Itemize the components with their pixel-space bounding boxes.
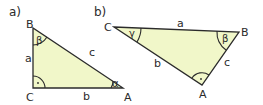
right-angle-dot-a	[37, 82, 39, 84]
triangle-diagrams: a) B C A a b c β α b)	[0, 0, 263, 105]
vertex-b-label-b: B	[241, 26, 249, 39]
angle-alpha-label-a: α	[112, 78, 119, 89]
vertex-a-label-a: A	[124, 91, 132, 104]
side-b-label-a: b	[83, 90, 90, 103]
angle-beta-label-a: β	[36, 35, 42, 46]
vertex-c-label-a: C	[26, 91, 34, 104]
vertex-c-label-b: C	[104, 21, 112, 34]
side-a-label-a: a	[25, 52, 32, 65]
angle-gamma-label-b: γ	[129, 28, 135, 39]
part-label-b: b)	[94, 5, 106, 19]
vertex-b-label-a: B	[26, 18, 34, 31]
side-a-label-b: a	[177, 17, 184, 30]
side-c-label-b: c	[224, 56, 230, 69]
vertex-a-label-b: A	[199, 88, 207, 101]
part-label-a: a)	[9, 5, 21, 19]
diagram-svg: a) B C A a b c β α b)	[0, 0, 263, 105]
right-angle-dot-b	[200, 78, 202, 80]
side-b-label-b: b	[154, 57, 161, 70]
angle-beta-label-b: β	[222, 33, 228, 44]
side-c-label-a: c	[89, 46, 95, 59]
triangle-a: a) B C A a b c β α	[9, 5, 132, 104]
